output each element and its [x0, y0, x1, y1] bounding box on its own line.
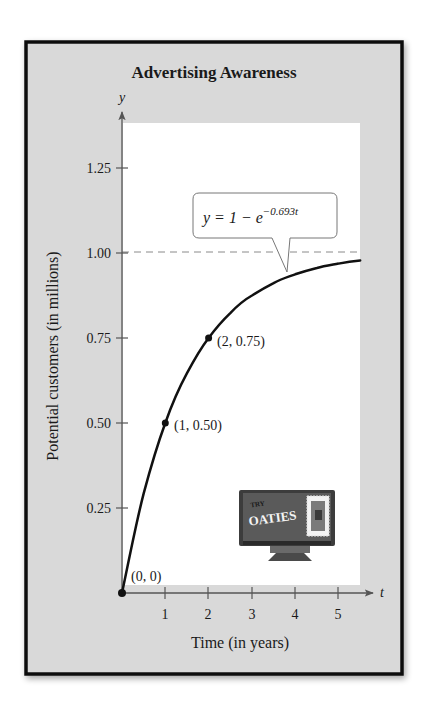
data-point-0-0 [118, 589, 126, 597]
x-axis-title: Time (in years) [191, 634, 289, 652]
chart-title: Advertising Awareness [131, 63, 297, 82]
point-label-2-075: (2, 0.75) [217, 334, 265, 350]
equation-exponent: −0.693t [263, 205, 299, 217]
point-label-0-0: (0, 0) [131, 569, 162, 585]
svg-text:3: 3 [249, 607, 256, 622]
equation-main: y = 1 − e [201, 209, 263, 227]
svg-text:0.50: 0.50 [87, 416, 112, 431]
y-axis-title: Potential customers (in millions) [44, 251, 62, 460]
point-label-1-050: (1, 0.50) [174, 418, 222, 434]
y-axis-variable: y [117, 90, 126, 105]
svg-text:0.25: 0.25 [87, 501, 112, 516]
svg-text:4: 4 [292, 607, 299, 622]
data-point-1-050 [162, 420, 169, 427]
svg-text:5: 5 [335, 607, 342, 622]
svg-text:2: 2 [205, 607, 212, 622]
svg-text:0.75: 0.75 [87, 331, 112, 346]
chart-figure: Advertising Awareness y t 0.25 0.50 0.75… [0, 0, 425, 715]
data-point-2-075 [205, 335, 212, 342]
svg-text:1.00: 1.00 [87, 246, 112, 261]
svg-text:1.25: 1.25 [87, 161, 112, 176]
svg-text:1: 1 [162, 607, 169, 622]
